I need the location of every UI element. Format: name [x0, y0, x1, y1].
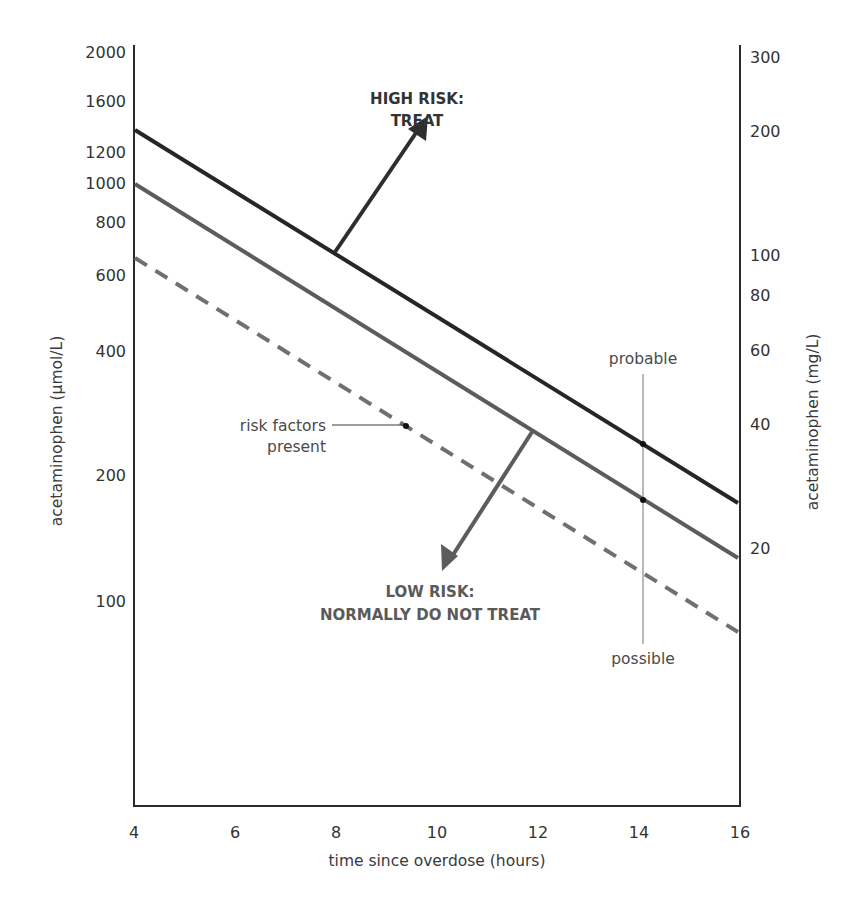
- low-risk-arrow: [441, 432, 532, 571]
- nomogram-lines: [135, 130, 738, 632]
- left-axis-ticks: 2000 1600 1200 1000 800 600 400 200 100: [85, 43, 126, 611]
- possible-marker: [640, 497, 646, 503]
- x-tick: 14: [629, 823, 649, 842]
- y-left-tick: 800: [95, 213, 126, 232]
- plot-frame: [133, 45, 741, 807]
- y-right-tick: 100: [750, 246, 781, 265]
- y-left-tick: 400: [95, 342, 126, 361]
- x-tick: 12: [528, 823, 548, 842]
- y-right-tick: 80: [750, 286, 770, 305]
- high-risk-label-treat: TREAT: [391, 112, 444, 130]
- risk-factors-marker: [403, 423, 409, 429]
- probable-possible-callout: [640, 374, 646, 644]
- y-left-tick: 200: [95, 466, 126, 485]
- acetaminophen-nomogram-chart: 2000 1600 1200 1000 800 600 400 200 100 …: [0, 0, 865, 920]
- y-left-tick: 100: [95, 592, 126, 611]
- x-tick: 4: [129, 823, 139, 842]
- x-tick: 10: [427, 823, 447, 842]
- right-axis-ticks: 300 200 100 80 60 40 20: [750, 48, 781, 558]
- x-tick: 16: [730, 823, 750, 842]
- x-tick: 6: [230, 823, 240, 842]
- risk-factors-label-present: present: [267, 438, 326, 456]
- x-tick: 8: [331, 823, 341, 842]
- x-axis-ticks: 4 6 8 10 12 14 16: [129, 823, 750, 842]
- x-axis-title: time since overdose (hours): [329, 852, 546, 870]
- y-right-tick: 200: [750, 122, 781, 141]
- probable-marker: [640, 441, 646, 447]
- y-right-tick: 60: [750, 341, 770, 360]
- y-right-tick: 300: [750, 48, 781, 67]
- low-risk-label-no-treat: NORMALLY DO NOT TREAT: [320, 606, 541, 624]
- y-left-tick: 2000: [85, 43, 126, 62]
- y-left-tick: 1600: [85, 92, 126, 111]
- risk-factors-label: risk factors: [240, 417, 326, 435]
- low-risk-label: LOW RISK:: [385, 583, 474, 601]
- treatment-line: [135, 184, 738, 558]
- y-left-axis-title: acetaminophen (µmol/L): [48, 336, 66, 527]
- high-risk-label: HIGH RISK:: [370, 90, 464, 108]
- risk-factors-callout: [332, 423, 409, 429]
- high-risk-arrow: [335, 116, 428, 252]
- possible-label: possible: [611, 650, 674, 668]
- y-right-axis-title: acetaminophen (mg/L): [804, 334, 822, 511]
- y-right-tick: 40: [750, 415, 770, 434]
- y-left-tick: 1000: [85, 174, 126, 193]
- y-left-tick: 1200: [85, 143, 126, 162]
- probable-label: probable: [609, 350, 677, 368]
- high-risk-line: [135, 130, 738, 503]
- y-right-tick: 20: [750, 539, 770, 558]
- y-left-tick: 600: [95, 266, 126, 285]
